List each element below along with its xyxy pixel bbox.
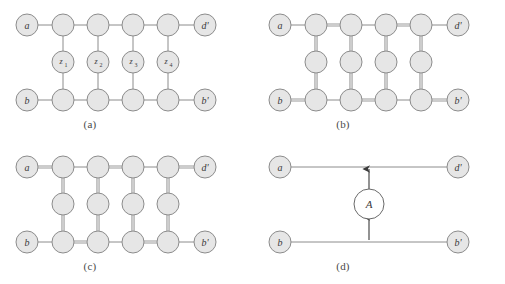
- node-top-3: [157, 156, 179, 178]
- node-bottom-1: [87, 231, 109, 253]
- node-top-1: [87, 14, 109, 36]
- label-terminal-a: a: [25, 20, 30, 31]
- label-node-middle-3-subscript: 4: [170, 62, 173, 68]
- node-bottom-2: [122, 231, 144, 253]
- node-middle-2: [122, 51, 144, 73]
- label-terminal-a: a: [25, 162, 30, 173]
- node-middle-0: [305, 51, 327, 73]
- label-terminal-d-prime: d': [454, 162, 462, 173]
- node-top-0: [52, 156, 74, 178]
- node-top-3: [157, 14, 179, 36]
- label-gadget-A: A: [365, 198, 373, 210]
- node-middle-2: [122, 193, 144, 215]
- label-terminal-b-prime: b': [201, 237, 209, 248]
- panel-c-caption: (c): [0, 260, 216, 272]
- node-top-1: [87, 156, 109, 178]
- node-top-0: [305, 14, 327, 36]
- label-terminal-b: b: [278, 95, 283, 106]
- node-top-0: [52, 14, 74, 36]
- label-terminal-a: a: [278, 20, 283, 31]
- node-bottom-2: [375, 89, 397, 111]
- panel-b-caption: (b): [217, 118, 469, 130]
- node-middle-0: [52, 51, 74, 73]
- label-node-middle-0-subscript: 1: [65, 62, 68, 68]
- node-bottom-3: [157, 89, 179, 111]
- node-bottom-3: [410, 89, 432, 111]
- node-middle-1: [87, 193, 109, 215]
- node-middle-3: [410, 51, 432, 73]
- node-bottom-0: [52, 231, 74, 253]
- node-top-3: [410, 14, 432, 36]
- label-terminal-b: b: [278, 237, 283, 248]
- node-bottom-1: [340, 89, 362, 111]
- label-terminal-b: b: [25, 95, 30, 106]
- label-terminal-b: b: [25, 237, 30, 248]
- node-top-1: [340, 14, 362, 36]
- node-middle-2: [375, 51, 397, 73]
- label-terminal-b-prime: b': [201, 95, 209, 106]
- node-middle-0: [52, 193, 74, 215]
- node-middle-1: [87, 51, 109, 73]
- label-terminal-b-prime: b': [454, 237, 462, 248]
- label-node-middle-1-subscript: 2: [100, 62, 103, 68]
- node-bottom-0: [305, 89, 327, 111]
- node-top-2: [122, 14, 144, 36]
- panel-d-caption: (d): [217, 260, 469, 272]
- label-terminal-d-prime: d': [454, 20, 462, 31]
- node-bottom-2: [122, 89, 144, 111]
- panel-b: a d' b b' (b): [253, 0, 505, 142]
- node-middle-3: [157, 193, 179, 215]
- node-middle-1: [340, 51, 362, 73]
- label-terminal-b-prime: b': [454, 95, 462, 106]
- node-top-2: [122, 156, 144, 178]
- panel-a-caption: (a): [0, 118, 216, 130]
- label-node-middle-2-subscript: 3: [135, 62, 138, 68]
- label-terminal-d-prime: d': [201, 162, 209, 173]
- node-bottom-1: [87, 89, 109, 111]
- node-bottom-0: [52, 89, 74, 111]
- panel-d: a d' b b' A (d): [253, 142, 505, 284]
- label-terminal-d-prime: d': [201, 20, 209, 31]
- panel-a: a d' b b' z 1 z 2 z 3 z 4 (a): [0, 0, 252, 142]
- node-bottom-3: [157, 231, 179, 253]
- node-top-2: [375, 14, 397, 36]
- figure-container: a d' b b' z 1 z 2 z 3 z 4 (a): [0, 0, 505, 284]
- node-middle-3: [157, 51, 179, 73]
- label-terminal-a: a: [278, 162, 283, 173]
- panel-c: a d' b b' (c): [0, 142, 252, 284]
